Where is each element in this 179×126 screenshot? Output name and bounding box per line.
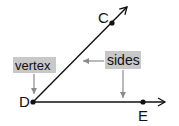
label-c: C — [98, 9, 109, 26]
sides-callout-label: sides — [107, 52, 140, 68]
label-e: E — [138, 107, 148, 124]
label-d: D — [19, 93, 30, 110]
vertex-callout-label: vertex — [15, 58, 51, 73]
point-d — [30, 99, 35, 104]
point-e — [140, 99, 145, 104]
point-c — [109, 20, 114, 25]
angle-diagram: D C E vertex sides — [0, 0, 179, 126]
